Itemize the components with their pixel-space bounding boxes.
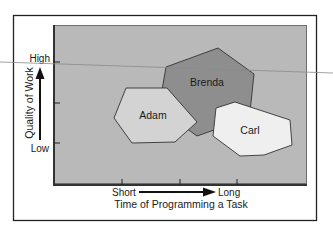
x-short-label: Short [112,187,136,198]
label-carl: Carl [240,124,259,136]
label-brenda: Brenda [190,76,224,88]
label-adam: Adam [139,109,167,121]
y-axis-title: Quality of Work [23,66,35,138]
diagram-figure: Adam Brenda Carl High Low Quality of Wor… [0,0,333,231]
y-high-label: High [29,53,50,64]
x-axis-title: Time of Programming a Task [114,198,248,210]
x-long-label: Long [218,187,240,198]
y-low-label: Low [31,143,50,154]
